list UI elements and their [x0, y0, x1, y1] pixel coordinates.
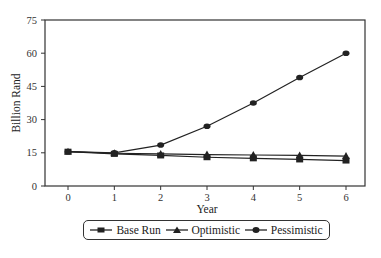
y-tick-label: 0: [32, 181, 37, 192]
legend-item-base-run: Base Run: [90, 224, 160, 236]
y-axis-label: Billion Rand: [10, 73, 22, 132]
line-chart: 015304560750123456YearBillion Rand: [0, 0, 381, 220]
y-tick-label: 15: [27, 147, 38, 158]
x-tick-label: 6: [343, 192, 348, 203]
series-line-pessimistic: [68, 53, 346, 153]
y-tick-label: 30: [27, 114, 38, 125]
legend-label: Optimistic: [192, 224, 241, 236]
legend-label: Base Run: [116, 224, 160, 236]
x-tick-label: 3: [204, 192, 209, 203]
plot-frame: [45, 20, 365, 186]
circle-marker-icon: [111, 150, 118, 156]
legend-label: Pessimistic: [271, 224, 323, 236]
x-tick-label: 0: [65, 192, 70, 203]
x-tick-label: 4: [251, 192, 257, 203]
x-tick-label: 2: [158, 192, 163, 203]
y-tick-label: 60: [27, 48, 38, 59]
square-marker-icon: [90, 225, 112, 235]
y-tick-label: 45: [27, 81, 38, 92]
triangle-marker-icon: [166, 225, 188, 235]
circle-marker-icon: [157, 142, 164, 148]
circle-marker-icon: [296, 75, 303, 81]
y-tick-label: 75: [27, 15, 38, 26]
legend-item-pessimistic: Pessimistic: [245, 224, 323, 236]
x-tick-label: 5: [297, 192, 302, 203]
circle-marker-icon: [204, 123, 211, 129]
circle-marker-icon: [343, 50, 350, 56]
x-tick-label: 1: [112, 192, 117, 203]
legend-item-optimistic: Optimistic: [166, 224, 241, 236]
circle-marker-icon: [65, 149, 72, 155]
circle-marker-icon: [250, 100, 257, 106]
chart-legend: Base Run Optimistic Pessimistic: [83, 220, 330, 240]
circle-marker-icon: [245, 225, 267, 235]
x-axis-label: Year: [196, 203, 217, 215]
